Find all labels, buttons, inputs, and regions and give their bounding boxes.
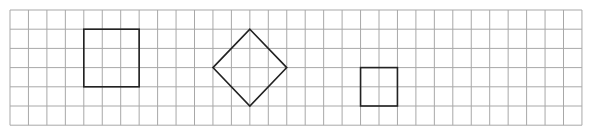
grid-diagram [0, 0, 591, 132]
grid-lines [10, 10, 582, 125]
large-square [84, 29, 139, 87]
